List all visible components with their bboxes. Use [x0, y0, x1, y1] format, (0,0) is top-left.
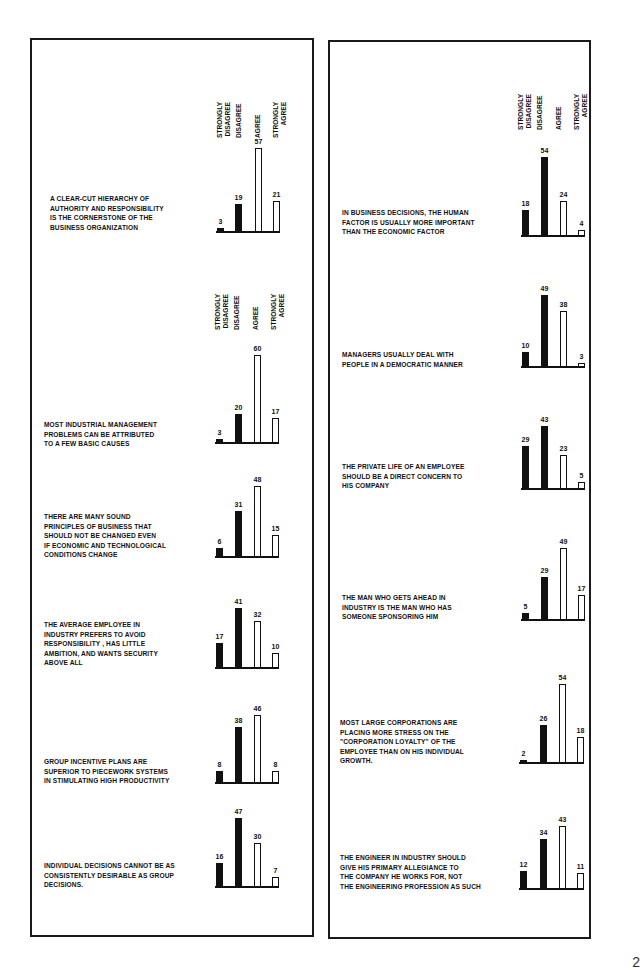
- bar-value-label: 7: [266, 867, 286, 874]
- bar-value-label: 8: [266, 761, 286, 768]
- survey-statement: THERE ARE MANY SOUND PRINCIPLES OF BUSIN…: [44, 512, 166, 560]
- bar-value-label: 11: [571, 863, 591, 870]
- bar-agree: [559, 684, 566, 763]
- survey-statement: MOST INDUSTRIAL MANAGEMENT PROBLEMS CAN …: [44, 420, 157, 449]
- bar-value-label: 29: [535, 567, 555, 574]
- bar-disagree: [235, 608, 242, 668]
- bar-strongly-disagree: [216, 548, 223, 557]
- bar-value-label: 49: [535, 285, 555, 292]
- bar-strongly-disagree: [522, 613, 529, 620]
- bar-agree: [560, 455, 567, 489]
- bar-strongly-disagree: [520, 871, 527, 889]
- bar-value-label: 26: [534, 715, 554, 722]
- bar-value-label: 32: [248, 611, 268, 618]
- scale-header-label: AGREE: [254, 115, 262, 138]
- bar-agree: [254, 355, 261, 443]
- chart-baseline: [521, 619, 585, 621]
- bar-disagree: [541, 157, 548, 236]
- scale-header-label: STRONGLY AGREE: [270, 294, 285, 330]
- bar-disagree: [540, 725, 547, 763]
- chart-baseline: [519, 762, 584, 764]
- bar-strongly-agree: [577, 737, 584, 763]
- bar-value-label: 41: [229, 598, 249, 605]
- bar-value-label: 21: [267, 191, 287, 198]
- bar-value-label: 17: [572, 585, 592, 592]
- bar-strongly-agree: [578, 595, 585, 620]
- bar-agree: [559, 826, 566, 889]
- bar-disagree: [235, 414, 242, 443]
- bar-disagree: [235, 818, 242, 887]
- chart-baseline: [215, 782, 279, 784]
- bar-disagree: [541, 577, 548, 620]
- survey-statement: MOST LARGE CORPORATIONS ARE PLACING MORE…: [340, 718, 464, 766]
- page-number: 2: [632, 954, 640, 970]
- scale-header-label: DISAGREE: [233, 296, 241, 330]
- bar-value-label: 29: [516, 436, 536, 443]
- bar-strongly-agree: [272, 535, 279, 557]
- bar-strongly-agree: [272, 653, 279, 668]
- chart-baseline: [521, 488, 585, 490]
- survey-statement: THE MAN WHO GETS AHEAD IN INDUSTRY IS TH…: [342, 593, 452, 622]
- survey-statement: IN BUSINESS DECISIONS, THE HUMAN FACTOR …: [342, 208, 475, 237]
- bar-value-label: 57: [249, 138, 269, 145]
- bar-agree: [254, 843, 261, 887]
- scale-header-label: STRONGLY AGREE: [272, 102, 287, 138]
- bar-value-label: 31: [229, 501, 249, 508]
- bar-value-label: 5: [572, 472, 592, 479]
- bar-value-label: 46: [248, 705, 268, 712]
- bar-value-label: 38: [229, 717, 249, 724]
- bar-value-label: 30: [248, 833, 268, 840]
- bar-agree: [254, 621, 261, 668]
- bar-value-label: 48: [248, 476, 268, 483]
- bar-value-label: 49: [554, 538, 574, 545]
- bar-value-label: 17: [266, 408, 286, 415]
- bar-value-label: 12: [514, 861, 534, 868]
- chart-baseline: [215, 556, 279, 558]
- chart-baseline: [521, 235, 585, 237]
- bar-strongly-disagree: [216, 439, 223, 443]
- scale-header-label: STRONGLY DISAGREE: [216, 102, 231, 138]
- bar-value-label: 18: [571, 727, 591, 734]
- bar-value-label: 17: [210, 633, 230, 640]
- scale-header-label: DISAGREE: [536, 96, 544, 130]
- scale-header-label: STRONGLY DISAGREE: [517, 94, 532, 130]
- bar-strongly-disagree: [522, 446, 529, 489]
- survey-statement: THE AVERAGE EMPLOYEE IN INDUSTRY PREFERS…: [44, 620, 158, 668]
- bar-disagree: [541, 426, 548, 489]
- bar-value-label: 43: [553, 816, 573, 823]
- bar-value-label: 3: [572, 353, 592, 360]
- bar-strongly-disagree: [522, 352, 529, 367]
- bar-agree: [560, 311, 567, 367]
- bar-value-label: 18: [516, 200, 536, 207]
- bar-value-label: 2: [514, 750, 534, 757]
- survey-statement: INDIVIDUAL DECISIONS CANNOT BE AS CONSIS…: [44, 861, 175, 890]
- bar-agree: [560, 548, 567, 620]
- bar-value-label: 60: [248, 345, 268, 352]
- bar-value-label: 38: [554, 301, 574, 308]
- bar-strongly-agree: [578, 482, 585, 489]
- bar-agree: [255, 148, 262, 232]
- survey-statement: A CLEAR-CUT HIERARCHY OF AUTHORITY AND R…: [50, 194, 164, 232]
- survey-statement: THE ENGINEER IN INDUSTRY SHOULD GIVE HIS…: [340, 853, 481, 891]
- bar-strongly-disagree: [522, 210, 529, 236]
- bar-value-label: 10: [266, 643, 286, 650]
- chart-baseline: [215, 667, 279, 669]
- bar-strongly-disagree: [217, 228, 224, 232]
- scale-header-label: DISAGREE: [235, 104, 243, 138]
- survey-statement: GROUP INCENTIVE PLANS ARE SUPERIOR TO PI…: [44, 757, 169, 786]
- bar-strongly-agree: [272, 877, 279, 887]
- bar-value-label: 10: [516, 342, 536, 349]
- scale-header-label: AGREE: [555, 107, 563, 130]
- bar-agree: [254, 486, 261, 557]
- bar-value-label: 3: [211, 218, 231, 225]
- scale-header-label: STRONGLY DISAGREE: [214, 294, 229, 330]
- bar-value-label: 54: [535, 147, 555, 154]
- bar-value-label: 24: [554, 191, 574, 198]
- bar-value-label: 5: [516, 603, 536, 610]
- bar-strongly-agree: [577, 873, 584, 889]
- bar-strongly-agree: [273, 201, 280, 232]
- bar-value-label: 16: [210, 853, 230, 860]
- bar-value-label: 20: [229, 404, 249, 411]
- bar-value-label: 8: [210, 761, 230, 768]
- chart-baseline: [215, 442, 279, 444]
